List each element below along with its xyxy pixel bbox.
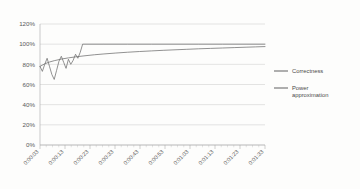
y-axis-tick-label: 60% xyxy=(23,81,36,88)
chart-legend: CorrectnessPowerapproximation xyxy=(274,68,328,98)
x-axis-ticks xyxy=(40,145,265,149)
x-axis-tick-label: 0:00:23 xyxy=(72,148,89,165)
line-chart: 0%20%40%60%80%100%120% 0:00:030:00:130:0… xyxy=(0,0,360,189)
legend-label: Correctness xyxy=(292,68,323,74)
series-line-correctness xyxy=(40,44,265,79)
x-axis-tick-label: 0:01:03 xyxy=(172,148,189,165)
x-axis-tick-label: 0:00:13 xyxy=(47,148,64,165)
x-axis-tick-label: 0:01:23 xyxy=(222,148,239,165)
x-axis-tick-label: 0:00:03 xyxy=(22,148,39,165)
y-axis-tick-label: 80% xyxy=(23,61,36,68)
y-axis-tick-label: 0% xyxy=(26,141,35,148)
y-axis-tick-label: 120% xyxy=(19,20,35,27)
legend-label-line2: approximation xyxy=(292,92,328,98)
chart-container: 0%20%40%60%80%100%120% 0:00:030:00:130:0… xyxy=(0,0,360,189)
x-axis-tick-label: 0:00:33 xyxy=(97,148,114,165)
y-axis-labels: 0%20%40%60%80%100%120% xyxy=(19,20,35,148)
series-line-power-approximation xyxy=(40,47,265,67)
legend-label: Power xyxy=(292,85,309,91)
data-series xyxy=(40,44,265,79)
x-axis-tick-label: 0:01:13 xyxy=(197,148,214,165)
y-axis-tick-label: 20% xyxy=(23,121,36,128)
gridlines xyxy=(40,24,265,145)
y-axis-tick-label: 40% xyxy=(23,101,36,108)
x-axis-tick-label: 0:00:43 xyxy=(122,148,139,165)
x-axis-labels: 0:00:030:00:130:00:230:00:330:00:430:00:… xyxy=(22,148,264,165)
x-axis-tick-label: 0:01:33 xyxy=(247,148,264,165)
y-axis-tick-label: 100% xyxy=(19,40,35,47)
x-axis-tick-label: 0:00:53 xyxy=(147,148,164,165)
